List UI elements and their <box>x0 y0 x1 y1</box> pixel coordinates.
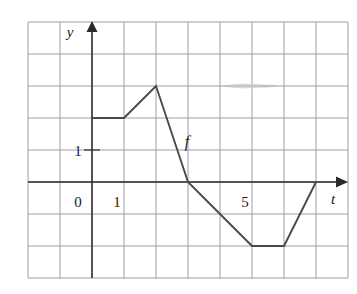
x-tick-label-1: 1 <box>113 194 121 210</box>
origin-label-0: 0 <box>74 194 82 210</box>
graph-figure: y t f 0 1 1 5 <box>0 0 357 294</box>
figure-background <box>0 0 357 294</box>
y-axis-label: y <box>65 24 74 40</box>
function-graph-plot: y t f 0 1 1 5 <box>0 0 357 294</box>
x-tick-label-5: 5 <box>241 194 249 210</box>
y-tick-label-1: 1 <box>74 143 82 159</box>
